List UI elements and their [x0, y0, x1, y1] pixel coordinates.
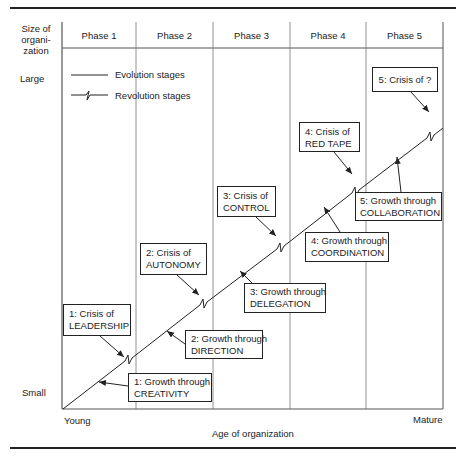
- y-axis-small-label: Small: [22, 387, 46, 398]
- phase-3-header: Phase 3: [213, 22, 290, 48]
- crisis-4-line-1: 4: Crisis of: [305, 126, 354, 138]
- crisis-1-line-2: LEADERSHIP: [69, 320, 125, 332]
- crisis-box-2: 2: Crisis of AUTONOMY: [140, 243, 207, 275]
- x-axis-mature-label: Mature: [413, 414, 443, 425]
- crisis-3-line-2: CONTROL: [223, 202, 270, 214]
- y-axis-title-line-1: Size of: [14, 23, 58, 34]
- growth-1-line-1: 1: Growth through: [134, 376, 206, 388]
- growth-5-line-1: 5: Growth through: [360, 195, 436, 207]
- growth-box-1: 1: Growth through CREATIVITY: [128, 373, 212, 402]
- growth-3-line-2: DELEGATION: [250, 298, 320, 310]
- growth-2-line-2: DIRECTION: [191, 345, 257, 357]
- y-axis-title-line-2: organi-: [14, 34, 58, 45]
- growth-box-5: 5: Growth through COLLABORATION: [355, 192, 442, 221]
- growth-3-line-1: 3: Growth through: [250, 286, 320, 298]
- crisis-box-5: 5: Crisis of ?: [372, 67, 438, 92]
- crisis-box-4: 4: Crisis of RED TAPE: [299, 122, 360, 152]
- phase-4-header: Phase 4: [290, 22, 366, 48]
- growth-box-4: 4: Growth through COORDINATION: [305, 232, 389, 262]
- legend-revolution-label: Revolution stages: [115, 90, 191, 101]
- growth-4-line-2: COORDINATION: [311, 247, 383, 259]
- crisis-2-line-2: AUTONOMY: [146, 259, 201, 271]
- crisis-2-line-1: 2: Crisis of: [146, 247, 201, 259]
- x-axis-young-label: Young: [64, 415, 91, 426]
- crisis-4-line-2: RED TAPE: [305, 138, 354, 150]
- y-axis-title-line-3: zation: [14, 45, 58, 56]
- growth-5-line-2: COLLABORATION: [360, 207, 436, 219]
- phase-5-header: Phase 5: [366, 22, 443, 48]
- growth-1-line-2: CREATIVITY: [134, 388, 206, 400]
- crisis-5-line-1: 5: Crisis of ?: [379, 74, 432, 86]
- y-axis-large-label: Large: [20, 73, 44, 84]
- phase-1-header: Phase 1: [62, 22, 136, 48]
- growth-box-3: 3: Growth through DELEGATION: [244, 283, 326, 313]
- growth-4-line-1: 4: Growth through: [311, 235, 383, 247]
- crisis-box-1: 1: Crisis of LEADERSHIP: [63, 304, 131, 336]
- crisis-1-line-1: 1: Crisis of: [69, 308, 125, 320]
- y-axis-title: Size of organi- zation: [14, 23, 58, 56]
- crisis-box-3: 3: Crisis of CONTROL: [217, 186, 276, 217]
- crisis-3-line-1: 3: Crisis of: [223, 190, 270, 202]
- growth-2-line-1: 2: Growth through: [191, 333, 257, 345]
- x-axis-title: Age of organization: [212, 428, 294, 439]
- growth-box-2: 2: Growth through DIRECTION: [185, 330, 263, 359]
- legend-evolution-label: Evolution stages: [115, 69, 185, 80]
- phase-2-header: Phase 2: [136, 22, 213, 48]
